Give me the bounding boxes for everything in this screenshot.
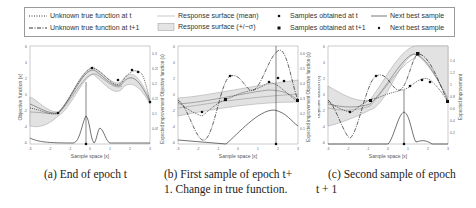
svg-text:4: 4 <box>323 61 325 65</box>
svg-text:-2: -2 <box>322 109 325 113</box>
svg-text:0.2: 0.2 <box>450 131 455 135</box>
svg-text:6: 6 <box>323 45 325 49</box>
dotted-line-icon <box>29 14 47 18</box>
svg-text:0.3: 0.3 <box>152 52 157 56</box>
svg-text:Objective function (x): Objective function (x) <box>318 75 321 118</box>
svg-text:0: 0 <box>387 147 389 151</box>
gray-box-icon <box>157 23 175 31</box>
panel-a-plot: 6420-2-4-6 0.30.250.20.150.10.05 -3-2-10… <box>18 42 158 162</box>
svg-text:-2: -2 <box>24 109 27 113</box>
svg-text:2: 2 <box>173 77 175 81</box>
thin-line-icon <box>157 14 175 18</box>
svg-text:0.1: 0.1 <box>152 112 157 116</box>
svg-text:2: 2 <box>277 147 279 151</box>
svg-text:-1: -1 <box>68 147 71 151</box>
legend-item-next-dot: Next best sample <box>371 24 444 32</box>
svg-text:0: 0 <box>237 147 239 151</box>
svg-text:0.2: 0.2 <box>152 82 157 86</box>
svg-text:-2: -2 <box>196 147 199 151</box>
svg-text:3: 3 <box>149 147 151 151</box>
svg-text:3: 3 <box>297 147 299 151</box>
panel-c-plot: 6420-2-4-6 1.41.210.80.60.40.2 -3-2-1012… <box>318 42 476 162</box>
svg-text:-6: -6 <box>322 141 325 145</box>
svg-text:Expected improvement: Expected improvement <box>458 73 463 120</box>
legend-item-true-t: Unknown true function at t <box>29 12 131 20</box>
caption-c-line1: (c) Second sample of epoch <box>328 167 456 181</box>
svg-text:0.5: 0.5 <box>300 67 305 71</box>
caption-b-line2: 1. Change in true function. <box>164 182 287 196</box>
svg-text:1: 1 <box>407 147 409 151</box>
svg-text:1: 1 <box>109 147 111 151</box>
svg-text:Sample space [x]: Sample space [x] <box>369 153 408 159</box>
svg-text:-3: -3 <box>176 147 179 151</box>
legend-item-mean: Response surface (mean) <box>157 12 259 20</box>
legend-item-band: Response surface (+/−σ) <box>157 23 255 31</box>
svg-text:1: 1 <box>257 147 259 151</box>
svg-text:0.6: 0.6 <box>300 52 305 56</box>
svg-text:-4: -4 <box>172 125 175 129</box>
svg-text:-2: -2 <box>172 109 175 113</box>
svg-text:-3: -3 <box>28 147 31 151</box>
svg-text:1.4: 1.4 <box>450 59 455 63</box>
svg-text:0.1: 0.1 <box>300 127 305 131</box>
svg-text:-4: -4 <box>24 125 27 129</box>
svg-text:6: 6 <box>173 45 175 49</box>
svg-text:0.3: 0.3 <box>300 97 305 101</box>
svg-text:-6: -6 <box>24 141 27 145</box>
svg-text:Sample space [x]: Sample space [x] <box>71 153 110 159</box>
solid-line-icon <box>371 14 387 18</box>
small-dot-icon <box>271 14 287 18</box>
svg-text:-2: -2 <box>48 147 51 151</box>
svg-text:6: 6 <box>25 45 27 49</box>
svg-text:2: 2 <box>129 147 131 151</box>
svg-text:3: 3 <box>447 147 449 151</box>
dash-dot-line-icon <box>29 26 47 30</box>
svg-text:-1: -1 <box>366 147 369 151</box>
svg-text:0.6: 0.6 <box>450 107 455 111</box>
svg-text:0: 0 <box>25 93 27 97</box>
caption-b-line1: (b) First sample of epoch t+ <box>164 167 292 181</box>
legend-item-samples-t1: Samples obtained at t+1 <box>271 24 366 32</box>
svg-text:2: 2 <box>323 77 325 81</box>
caption-a: (a) End of epoch t <box>44 167 127 181</box>
caption-c-line2: t + 1 <box>316 182 337 196</box>
svg-text:2: 2 <box>25 77 27 81</box>
svg-text:Objective function (x): Objective function (x) <box>18 73 23 120</box>
panel-b-ylabel-left: Expected improvement Objective function … <box>158 42 170 166</box>
legend-item-true-t1: Unknown true function at t+1 <box>29 24 139 32</box>
svg-text:-4: -4 <box>322 125 325 129</box>
svg-text:-6: -6 <box>172 141 175 145</box>
figure-legend: Unknown true function at t Unknown true … <box>24 7 455 37</box>
svg-text:-1: -1 <box>216 147 219 151</box>
svg-text:4: 4 <box>25 61 27 65</box>
svg-text:0: 0 <box>173 93 175 97</box>
svg-text:-3: -3 <box>326 147 329 151</box>
svg-text:2: 2 <box>427 147 429 151</box>
black-square-icon <box>271 26 287 30</box>
svg-text:Expected improvement Objective: Expected improvement Objective function … <box>306 52 311 142</box>
legend-item-next-line: Next best sample <box>371 12 444 20</box>
svg-text:0.4: 0.4 <box>450 119 455 123</box>
svg-text:0: 0 <box>89 147 91 151</box>
svg-text:4: 4 <box>173 61 175 65</box>
svg-text:0: 0 <box>323 93 325 97</box>
legend-item-samples-t: Samples obtained at t <box>271 12 358 20</box>
svg-text:0.8: 0.8 <box>450 95 455 99</box>
panel-b-plot: 6420-2-4-6 0.60.50.40.30.20.1 -3-2-10123… <box>168 42 318 162</box>
svg-text:1: 1 <box>450 83 452 87</box>
svg-text:Sample space [x]: Sample space [x] <box>219 153 258 159</box>
star-dot-icon <box>371 26 387 30</box>
svg-text:-2: -2 <box>346 147 349 151</box>
svg-text:0.4: 0.4 <box>300 82 305 86</box>
svg-text:1.2: 1.2 <box>450 71 455 75</box>
svg-text:Expected improvement Objective: Expected improvement Objective function … <box>160 54 165 144</box>
svg-text:0.2: 0.2 <box>300 112 305 116</box>
